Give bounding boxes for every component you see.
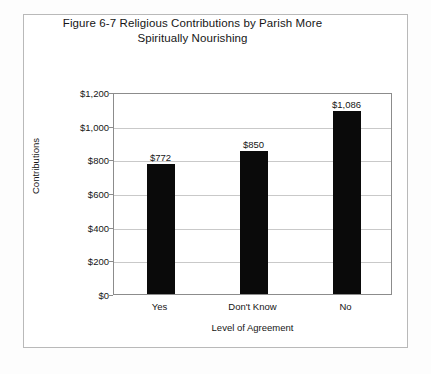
bar[interactable]: [333, 111, 361, 294]
y-axis-tick-mark: [108, 228, 113, 229]
y-axis-tick-label: $0: [51, 290, 109, 301]
y-axis-title: Contributions: [30, 138, 41, 194]
bar[interactable]: [240, 151, 268, 294]
y-axis-tick-mark: [108, 295, 113, 296]
x-axis-title: Level of Agreement: [113, 322, 392, 333]
chart-title-line-2: Spiritually Nourishing: [40, 31, 345, 46]
chart-title: Figure 6-7 Religious Contributions by Pa…: [40, 16, 345, 46]
y-axis-tick-label: $800: [51, 155, 109, 166]
y-axis-tick-mark: [108, 127, 113, 128]
x-axis-tick-label: No: [296, 301, 396, 312]
figure-page: Figure 6-7 Religious Contributions by Pa…: [0, 0, 431, 374]
bar[interactable]: [147, 164, 175, 294]
y-axis-tick-labels: $0$200$400$600$800$1,000$1,200: [47, 93, 109, 295]
bar-value-label: $850: [214, 139, 294, 150]
y-axis-tick-label: $400: [51, 222, 109, 233]
y-axis-tick-mark: [108, 261, 113, 262]
y-axis-tick-mark: [108, 93, 113, 94]
x-axis-tick-label: Don't Know: [203, 301, 303, 312]
y-axis-tick-mark: [108, 194, 113, 195]
bar-value-label: $772: [121, 152, 201, 163]
y-axis-tick-label: $200: [51, 256, 109, 267]
chart-title-line-1: Figure 6-7 Religious Contributions by Pa…: [40, 16, 345, 31]
y-axis-tick-mark: [108, 160, 113, 161]
y-axis-tick-label: $1,200: [51, 88, 109, 99]
y-axis-tick-label: $600: [51, 189, 109, 200]
plot-area: $772$850$1,086: [113, 93, 392, 295]
x-axis-tick-label: Yes: [110, 301, 210, 312]
y-axis-tick-label: $1,000: [51, 121, 109, 132]
bar-value-label: $1,086: [307, 99, 387, 110]
